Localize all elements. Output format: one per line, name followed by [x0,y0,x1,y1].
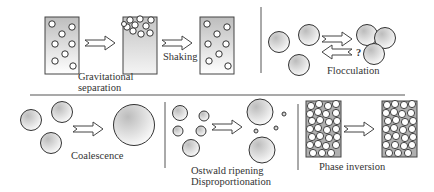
label-ostwald-line2: Disproportionation [191,176,272,187]
arrow-ostwald [212,120,242,134]
container-creamed [122,16,158,74]
ostwald-droplets [173,99,287,163]
arrow-coalescence [73,122,103,136]
label-phase-inversion: Phase inversion [319,161,386,172]
arrow-flocculation-reverse [322,45,352,59]
label-ostwald-line1: Ostwald ripening [191,165,264,176]
question-mark: ? [356,47,361,58]
container-dispersed [45,17,79,74]
arrow-shaking [162,36,192,50]
label-shaking: Shaking [163,51,198,62]
label-flocculation: Flocculation [327,65,380,76]
arrow-gravitational [85,36,115,50]
label-gravitational-line2: separation [78,82,122,93]
label-coalescence: Coalescence [71,150,124,161]
label-gravitational-line1: Gravitational [78,71,133,82]
container-phase-before [306,100,341,157]
arrow-phase-inversion [344,122,374,136]
container-phase-after [382,100,417,157]
container-redispersed [200,17,234,74]
emulsion-instability-diagram: Gravitational separation Shaking ? Flocc… [0,0,434,192]
arrow-flocculation-forward [322,32,352,46]
